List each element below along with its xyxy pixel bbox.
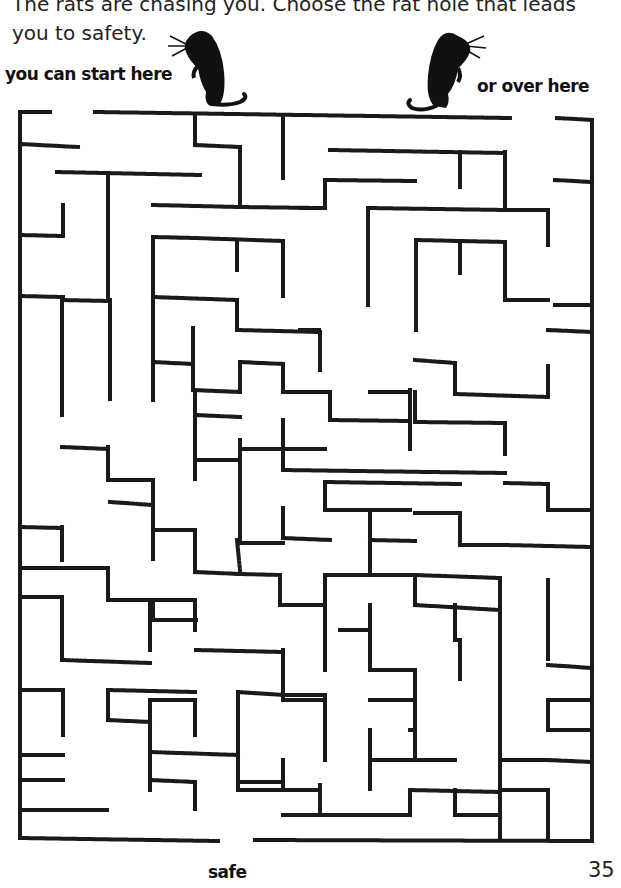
maze-wall bbox=[330, 150, 505, 153]
maze-wall bbox=[410, 790, 500, 792]
maze-wall bbox=[20, 296, 63, 297]
maze-wall bbox=[193, 390, 240, 392]
page-number: 35 bbox=[588, 858, 615, 882]
maze-wall bbox=[505, 483, 548, 484]
maze-wall bbox=[505, 545, 592, 547]
maze-wall bbox=[153, 237, 196, 238]
maze-wall bbox=[557, 118, 592, 120]
maze-wall bbox=[20, 144, 78, 147]
maze-wall bbox=[548, 760, 592, 762]
maze-wall bbox=[325, 180, 415, 181]
maze-wall bbox=[95, 112, 510, 118]
maze-wall bbox=[325, 482, 460, 484]
maze-wall bbox=[368, 208, 505, 210]
maze-wall bbox=[108, 720, 150, 722]
maze-wall bbox=[415, 422, 505, 423]
maze-wall bbox=[455, 394, 548, 397]
maze-wall bbox=[415, 575, 500, 578]
maze-wall bbox=[150, 752, 238, 755]
maze-wall bbox=[20, 527, 62, 528]
maze-wall bbox=[240, 574, 280, 575]
maze-wall bbox=[548, 665, 592, 668]
maze-wall bbox=[20, 235, 63, 236]
maze-wall bbox=[108, 690, 195, 692]
maze-wall bbox=[255, 840, 592, 841]
maze-wall bbox=[415, 360, 455, 363]
maze-wall bbox=[150, 780, 195, 782]
maze-wall bbox=[195, 145, 240, 147]
maze-wall bbox=[153, 205, 240, 207]
exit-label-safe: safe bbox=[208, 862, 247, 882]
maze-wall bbox=[153, 362, 193, 364]
maze-wall bbox=[62, 447, 108, 449]
maze-wall bbox=[283, 470, 505, 473]
maze-wall bbox=[548, 330, 592, 332]
maze-wall bbox=[62, 300, 108, 301]
maze-wall bbox=[330, 420, 410, 421]
maze-wall bbox=[415, 605, 500, 610]
maze-wall bbox=[57, 172, 200, 175]
maze-wall bbox=[153, 297, 237, 300]
maze-grid[interactable] bbox=[0, 0, 621, 888]
maze-wall bbox=[110, 502, 153, 505]
maze-wall bbox=[238, 692, 283, 695]
maze-wall bbox=[20, 838, 218, 841]
maze-wall bbox=[196, 650, 283, 652]
maze-wall bbox=[555, 180, 592, 182]
maze-wall bbox=[370, 540, 415, 541]
maze-wall bbox=[283, 538, 330, 540]
maze-wall bbox=[240, 362, 283, 364]
maze-wall bbox=[62, 660, 150, 663]
maze-wall bbox=[195, 415, 240, 417]
maze-wall bbox=[195, 572, 240, 574]
